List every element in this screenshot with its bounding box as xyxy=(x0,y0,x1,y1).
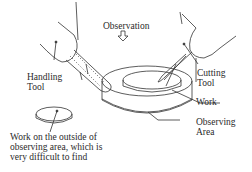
outside-work-caption: Work on the outside of observing area, w… xyxy=(10,132,102,162)
outside-work-disc xyxy=(36,107,72,132)
down-arrow-icon xyxy=(118,31,128,41)
observing-area-dish xyxy=(102,66,192,113)
work-label: Work xyxy=(196,97,217,107)
observing-area-leader-line xyxy=(148,112,180,120)
cutting-tool-label: Cutting Tool xyxy=(197,68,226,88)
observing-area-label: Observing Area xyxy=(196,117,236,137)
observation-label: Observation xyxy=(103,21,149,31)
handling-tool-label: Handling Tool xyxy=(27,72,62,92)
work-disc xyxy=(123,71,181,92)
